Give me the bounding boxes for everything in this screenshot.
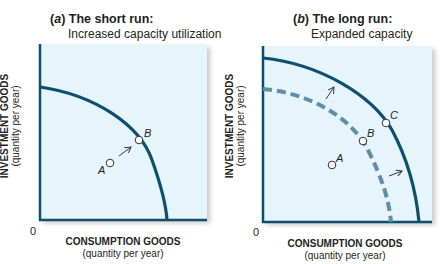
panel-a-point-a bbox=[106, 159, 114, 167]
panel-b-point-b-label: B bbox=[367, 127, 374, 139]
panel-b-background bbox=[263, 46, 432, 222]
panel-b-point-c-label: C bbox=[390, 109, 398, 121]
panel-a-background bbox=[40, 44, 207, 220]
panel-b-plot: A B C bbox=[262, 46, 432, 223]
diagram-canvas: A B A B C bbox=[0, 0, 445, 264]
panel-a-point-a-label: A bbox=[97, 164, 105, 176]
panel-b-point-a-label: A bbox=[335, 152, 343, 164]
panel-b-point-c bbox=[382, 119, 390, 127]
panel-b-point-b bbox=[359, 137, 367, 145]
panel-a-point-b bbox=[135, 136, 143, 144]
panel-b-point-a bbox=[328, 161, 336, 169]
panel-a-point-b-label: B bbox=[144, 127, 151, 139]
panel-a-plot: A B bbox=[39, 44, 207, 221]
